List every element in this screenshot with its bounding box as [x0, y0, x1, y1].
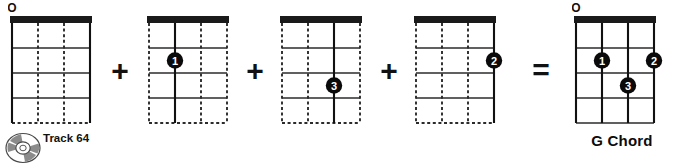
- chord-diagram-finger-3: 3: [278, 0, 378, 168]
- finger-marker-2: 2: [646, 52, 662, 68]
- compact-disc-icon: [4, 128, 44, 166]
- operator-equals: =: [524, 55, 558, 85]
- finger-number: 1: [599, 55, 605, 67]
- chord-diagram-result: O123G Chord: [572, 0, 672, 168]
- nut-bar: [280, 16, 362, 23]
- chord-diagram-finger-1-grid: 1: [145, 0, 245, 132]
- chord-name-label: G Chord: [572, 132, 672, 149]
- finger-marker-3: 3: [620, 77, 636, 93]
- finger-number: 2: [651, 55, 657, 67]
- operator-plus-1: +: [105, 56, 135, 86]
- chord-diagram-result-grid: O123: [572, 0, 672, 132]
- open-string-marker: O: [8, 1, 17, 15]
- nut-bar: [414, 16, 496, 23]
- chord-diagram-finger-2: 2: [412, 0, 512, 168]
- track-number-label: Track 64: [43, 132, 89, 144]
- nut-bar: [10, 16, 92, 23]
- finger-number: 3: [331, 80, 337, 92]
- finger-marker-1: 1: [167, 52, 183, 68]
- finger-number: 3: [625, 80, 631, 92]
- nut-bar: [574, 16, 656, 23]
- chord-diagram-finger-3-grid: 3: [278, 0, 378, 132]
- operator-plus-2: +: [240, 56, 270, 86]
- chord-diagram-finger-1: 1: [145, 0, 245, 168]
- operator-plus-3: +: [374, 56, 404, 86]
- finger-marker-1: 1: [594, 52, 610, 68]
- finger-number: 1: [172, 55, 178, 67]
- chord-diagram-finger-2-grid: 2: [412, 0, 512, 132]
- finger-marker-2: 2: [486, 52, 502, 68]
- finger-number: 2: [491, 55, 497, 67]
- chord-progression-figure: O132O123G Chord+++=Track 64: [0, 0, 675, 168]
- nut-bar: [147, 16, 229, 23]
- chord-diagram-open-strings-grid: O: [8, 0, 108, 132]
- track-badge: Track 64: [4, 128, 114, 168]
- open-string-marker: O: [572, 1, 581, 15]
- finger-marker-3: 3: [326, 77, 342, 93]
